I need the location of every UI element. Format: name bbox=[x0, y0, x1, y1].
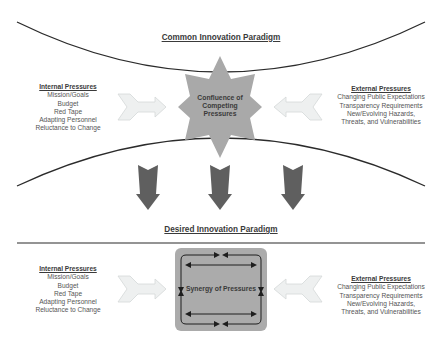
external-arrow-left-icon bbox=[274, 94, 322, 120]
bottom-section-title: Desired Innovation Paradigm bbox=[0, 225, 442, 234]
down-arrow-1-icon bbox=[136, 165, 160, 210]
list-item: New/Evolving Hazards, bbox=[326, 110, 436, 118]
confluence-label-line-3: Pressures bbox=[190, 110, 250, 118]
bottom-external-pressures: External Pressures Changing Public Expec… bbox=[326, 275, 436, 316]
list-item: Adapting Personnel bbox=[18, 298, 118, 306]
list-item: Transparency Requirements bbox=[326, 292, 436, 300]
list-item: Reluctance to Change bbox=[18, 306, 118, 314]
list-item: Transparency Requirements bbox=[326, 102, 436, 110]
list-item: Mission/Goals bbox=[18, 91, 118, 99]
down-arrow-2-icon bbox=[208, 165, 232, 210]
top-external-heading: External Pressures bbox=[326, 85, 436, 93]
list-item: Red Tape bbox=[18, 108, 118, 116]
top-internal-pressures: Internal Pressures Mission/Goals Budget … bbox=[18, 83, 118, 133]
top-section-title: Common Innovation Paradigm bbox=[0, 33, 442, 42]
internal-arrow-right-bottom-icon bbox=[118, 276, 166, 302]
confluence-label: Confluence of Competing Pressures bbox=[190, 94, 250, 119]
confluence-label-line-1: Confluence of bbox=[190, 94, 250, 102]
down-arrow-3-icon bbox=[281, 165, 305, 210]
bottom-external-heading: External Pressures bbox=[326, 275, 436, 283]
internal-arrow-right-icon bbox=[118, 94, 166, 120]
list-item: Budget bbox=[18, 282, 118, 290]
list-item: Changing Public Expectations bbox=[326, 283, 436, 291]
list-item: Threats, and Vulnerabilities bbox=[326, 118, 436, 126]
list-item: Threats, and Vulnerabilities bbox=[326, 308, 436, 316]
list-item: Mission/Goals bbox=[18, 273, 118, 281]
confluence-label-line-2: Competing bbox=[190, 102, 250, 110]
bottom-internal-pressures: Internal Pressures Mission/Goals Budget … bbox=[18, 265, 118, 315]
top-external-pressures: External Pressures Changing Public Expec… bbox=[326, 85, 436, 126]
list-item: Adapting Personnel bbox=[18, 116, 118, 124]
list-item: Reluctance to Change bbox=[18, 124, 118, 132]
external-arrow-left-bottom-icon bbox=[274, 276, 322, 302]
list-item: Budget bbox=[18, 100, 118, 108]
top-internal-heading: Internal Pressures bbox=[18, 83, 118, 91]
list-item: New/Evolving Hazards, bbox=[326, 300, 436, 308]
synergy-label: Synergy of Pressures bbox=[175, 285, 267, 293]
bottom-internal-heading: Internal Pressures bbox=[18, 265, 118, 273]
list-item: Red Tape bbox=[18, 290, 118, 298]
list-item: Changing Public Expectations bbox=[326, 93, 436, 101]
